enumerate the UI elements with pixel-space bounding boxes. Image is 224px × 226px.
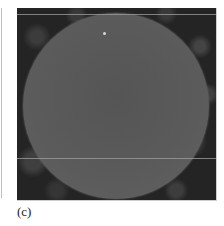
micrograph-image: [17, 8, 217, 200]
bright-speck: [103, 32, 106, 35]
horizontal-line-top: [17, 14, 216, 15]
adjacent-panel-edge: [1, 8, 2, 198]
figure-border: [17, 200, 217, 201]
horizontal-line-bottom: [17, 158, 216, 159]
circular-particle: [23, 13, 209, 199]
panel-label: (c): [17, 204, 31, 220]
